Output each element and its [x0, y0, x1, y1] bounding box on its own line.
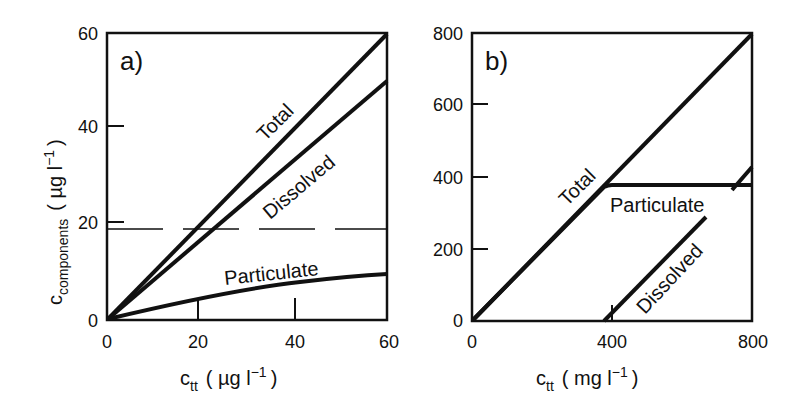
ytick-label: 20	[78, 213, 98, 233]
xtick-label: 60	[379, 332, 399, 352]
ytick-label: 0	[88, 311, 98, 331]
xtick-label: 400	[597, 332, 627, 352]
ytick-label: 40	[78, 117, 98, 137]
ytick-label: 800	[433, 24, 463, 44]
panel-a: 60 40 20 0 0 20 40 60 a) Total Dissolved…	[41, 24, 399, 394]
xlabel-a: ctt( µg l−1)	[180, 364, 277, 394]
ytick-label: 200	[433, 240, 463, 260]
xlabel-b: ctt( mg l−1)	[536, 364, 638, 394]
panel-b: 800 600 400 200 0 0 400 800 b) Total Par…	[433, 24, 768, 394]
label-particulate-b: Particulate	[610, 194, 705, 216]
xtick-label: 40	[285, 332, 305, 352]
ylabel-a: ccomponents( µg l−1)	[41, 139, 71, 305]
xtick-label: 800	[738, 332, 768, 352]
label-total-b: Total	[554, 164, 599, 209]
label-dissolved-a: Dissolved	[258, 150, 339, 223]
ytick-label: 0	[453, 311, 463, 331]
figure: 60 40 20 0 0 20 40 60 a) Total Dissolved…	[0, 0, 801, 411]
xtick-label: 0	[102, 332, 112, 352]
xtick-label: 0	[467, 332, 477, 352]
ytick-label: 60	[78, 24, 98, 44]
ytick-label: 600	[433, 95, 463, 115]
panel-label-a: a)	[120, 46, 143, 76]
ytick-label: 400	[433, 168, 463, 188]
panel-label-b: b)	[485, 46, 508, 76]
label-total-a: Total	[252, 99, 297, 144]
xtick-label: 20	[188, 332, 208, 352]
